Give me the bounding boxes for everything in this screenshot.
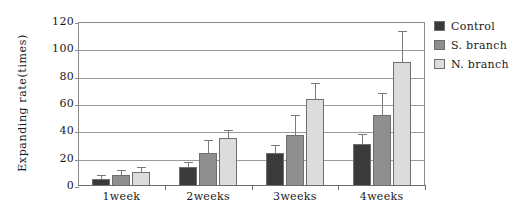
error-bar-cap [137,167,146,168]
y-axis-tick-label: 100 [40,44,74,54]
error-bar-cap [291,115,300,116]
bar [393,62,411,186]
bar-group [266,22,324,186]
chart-legend: ControlS. branchN. branch [434,18,509,75]
legend-item: N. branch [434,56,509,72]
error-bar-stem [402,32,403,62]
bar [219,138,237,186]
y-axis-tick-label: 120 [40,17,74,27]
x-axis-tick-label: 3weeks [255,190,335,203]
error-bar-stem [295,116,296,135]
error-bar-stem [382,94,383,115]
x-axis-tick-labels: 1week2weeks3weeks4weeks [78,190,425,210]
error-bar-stem [121,171,122,175]
legend-item-label: Control [451,20,495,33]
bars-layer [78,22,425,186]
error-bar-cap [184,162,193,163]
legend-swatch-icon [434,21,445,31]
error-bar-stem [362,135,363,143]
bar [266,153,284,186]
legend-item: S. branch [434,37,509,53]
y-axis-tick-label: 0 [40,181,74,191]
error-bar-stem [141,168,142,172]
y-axis-tick-label: 20 [40,154,74,164]
bar [353,144,371,186]
legend-swatch-icon [434,59,445,69]
error-bar-stem [228,131,229,138]
bar-group [179,22,237,186]
bar [179,167,197,186]
legend-item: Control [434,18,509,34]
error-bar-stem [208,141,209,153]
x-axis-tick-label: 2weeks [168,190,248,203]
x-axis-tick-mark [165,186,166,190]
error-bar-stem [275,146,276,153]
error-bar-cap [224,130,233,131]
bar-group [353,22,411,186]
error-bar-cap [97,175,106,176]
y-axis-tick-labels: 020406080100120 [40,0,74,221]
legend-item-label: S. branch [451,39,507,52]
x-axis-tick-label: 1week [81,190,161,203]
error-bar-stem [188,163,189,167]
error-bar-cap [117,170,126,171]
error-bar-cap [271,145,280,146]
error-bar-cap [378,93,387,94]
error-bar-cap [311,83,320,84]
error-bar-cap [398,31,407,32]
y-axis-tick-mark [75,187,79,188]
legend-item-label: N. branch [451,58,509,71]
error-bar-stem [315,84,316,99]
bar [199,153,217,186]
bar [306,99,324,186]
x-axis-tick-mark [252,186,253,190]
bar [373,115,391,186]
x-axis-tick-label: 4weeks [342,190,422,203]
legend-swatch-icon [434,40,445,50]
bar-group [92,22,150,186]
error-bar-cap [358,134,367,135]
x-axis-tick-mark [338,186,339,190]
x-axis-tick-mark [425,186,426,190]
bar [286,135,304,186]
y-axis-tick-label: 60 [40,99,74,109]
error-bar-cap [204,140,213,141]
y-axis-title: Expanding rate(times) [14,14,32,192]
bar-chart: Expanding rate(times) 020406080100120 1w… [0,0,527,221]
bar [132,172,150,186]
y-axis-tick-label: 40 [40,126,74,136]
y-axis-tick-label: 80 [40,72,74,82]
error-bar-stem [101,176,102,179]
